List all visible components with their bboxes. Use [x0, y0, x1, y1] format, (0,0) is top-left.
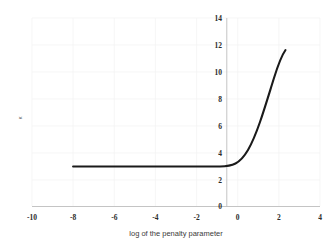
y-tick-12: 12	[215, 41, 223, 50]
line-chart: 14 12 10 8 6 4 2 0 -10 -8 -6 -4 -2 0 2 4…	[0, 0, 336, 250]
x-tick-neg6: -6	[111, 213, 117, 222]
x-tick-neg4: -4	[152, 213, 158, 222]
chart-background	[0, 0, 336, 250]
y-tick-0: 0	[218, 202, 222, 211]
x-tick-neg10: -10	[27, 213, 37, 222]
x-tick-0: 0	[236, 213, 240, 222]
y-tick-10: 10	[215, 68, 223, 77]
x-axis-title: log of the penalty parameter	[129, 229, 223, 238]
y-tick-2: 2	[218, 176, 222, 185]
y-tick-8: 8	[218, 95, 222, 104]
x-tick-4: 4	[318, 213, 322, 222]
x-tick-2: 2	[277, 213, 281, 222]
y-tick-4: 4	[218, 149, 222, 158]
y-tick-14: 14	[215, 14, 223, 23]
x-tick-neg2: -2	[193, 213, 199, 222]
chart-container: 14 12 10 8 6 4 2 0 -10 -8 -6 -4 -2 0 2 4…	[0, 0, 336, 250]
x-tick-neg8: -8	[70, 213, 76, 222]
y-tick-6: 6	[218, 122, 222, 131]
